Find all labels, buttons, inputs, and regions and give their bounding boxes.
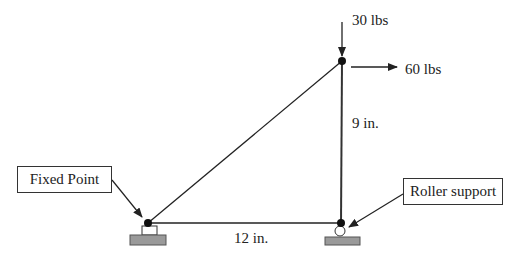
fixed-point-callout: Fixed Point	[17, 166, 112, 193]
truss-diagram: 30 lbs 60 lbs 9 in. 12 in.	[0, 0, 518, 256]
roller-support-callout: Roller support	[403, 178, 503, 205]
node-top	[338, 57, 346, 65]
fixed-support	[130, 226, 166, 245]
roller-support	[325, 226, 360, 245]
node-roller	[337, 219, 345, 227]
member-diagonal	[148, 61, 342, 223]
node-fixed	[144, 219, 152, 227]
height-dimension-label: 9 in.	[352, 115, 379, 131]
horizontal-load-label: 60 lbs	[405, 61, 441, 77]
roller-callout-arrow-icon	[349, 194, 403, 227]
fixed-callout-arrow-icon	[112, 180, 142, 217]
width-dimension-label: 12 in.	[234, 230, 268, 246]
member-vertical	[341, 61, 342, 223]
vertical-load-label: 30 lbs	[352, 12, 388, 28]
